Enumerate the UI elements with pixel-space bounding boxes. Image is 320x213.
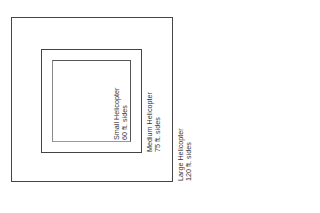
medium-helicopter-label: Medium Helicopter 75 ft. sides xyxy=(146,92,163,152)
large-helicopter-size: 120 ft. sides xyxy=(185,128,193,181)
small-helicopter-size: 60 ft. sides xyxy=(121,88,129,140)
large-helicopter-label: Large Helicopter 120 ft. sides xyxy=(177,128,194,181)
medium-helicopter-size: 75 ft. sides xyxy=(154,92,162,152)
small-helicopter-label: Small Helicopter 60 ft. sides xyxy=(113,88,130,140)
